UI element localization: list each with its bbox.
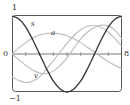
curve-label-v: v bbox=[34, 73, 38, 80]
curve-label-a: a bbox=[51, 30, 55, 37]
x-axis-end-label: 8 bbox=[124, 50, 129, 58]
curve-label-s: s bbox=[31, 21, 35, 28]
y-tick-label-bottom: −1 bbox=[9, 95, 21, 103]
y-tick-label-top: 1 bbox=[12, 4, 17, 12]
curve-a bbox=[12, 33, 122, 69]
y-tick-label-zero: 0 bbox=[3, 50, 8, 58]
chart-plot bbox=[0, 0, 130, 105]
